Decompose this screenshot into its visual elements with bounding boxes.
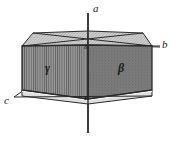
- crystal-diagram-figure: a b c γ β ε δ: [0, 0, 175, 142]
- top-face-left: [22, 31, 88, 46]
- top-faces: [22, 31, 152, 46]
- crystal-drawing: [0, 0, 175, 142]
